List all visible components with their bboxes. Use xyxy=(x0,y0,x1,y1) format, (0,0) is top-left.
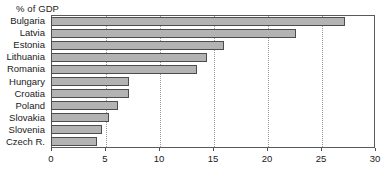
bar-chart: % of GDP BulgariaLatviaEstoniaLithuaniaR… xyxy=(0,0,392,178)
category-label: Latvia xyxy=(20,28,45,38)
bar xyxy=(51,65,197,74)
tick-label: 30 xyxy=(370,153,381,164)
category-axis: BulgariaLatviaEstoniaLithuaniaRomaniaHun… xyxy=(0,15,48,148)
category-label: Lithuania xyxy=(6,52,45,62)
tick-label: 25 xyxy=(316,153,327,164)
tick-mark xyxy=(51,148,52,151)
category-label: Slovakia xyxy=(9,113,45,123)
tick-label: 20 xyxy=(262,153,273,164)
category-label: Estonia xyxy=(13,40,45,50)
tick-mark xyxy=(213,148,214,151)
category-label: Czech R. xyxy=(6,137,45,147)
bar xyxy=(51,53,207,62)
tick-mark xyxy=(267,148,268,151)
bar xyxy=(51,137,97,146)
tick-label: 15 xyxy=(208,153,219,164)
tick-label: 5 xyxy=(102,153,107,164)
bar xyxy=(51,29,296,38)
category-label: Bulgaria xyxy=(10,16,45,26)
bars-layer xyxy=(51,15,375,148)
category-label: Slovenia xyxy=(9,125,45,135)
category-label: Croatia xyxy=(14,89,45,99)
category-label: Poland xyxy=(15,101,45,111)
category-label: Hungary xyxy=(9,77,45,87)
tick-label: 0 xyxy=(48,153,53,164)
bar xyxy=(51,125,102,134)
tick-mark xyxy=(375,148,376,151)
bar xyxy=(51,89,129,98)
axis-unit-label: % of GDP xyxy=(16,3,59,14)
tick-label: 10 xyxy=(154,153,165,164)
bar xyxy=(51,41,224,50)
value-axis: 051015202530 xyxy=(51,148,375,174)
bar xyxy=(51,77,129,86)
tick-mark xyxy=(105,148,106,151)
tick-mark xyxy=(321,148,322,151)
bar xyxy=(51,17,345,26)
category-label: Romania xyxy=(7,64,45,74)
bar xyxy=(51,101,118,110)
bar xyxy=(51,113,109,122)
tick-mark xyxy=(159,148,160,151)
